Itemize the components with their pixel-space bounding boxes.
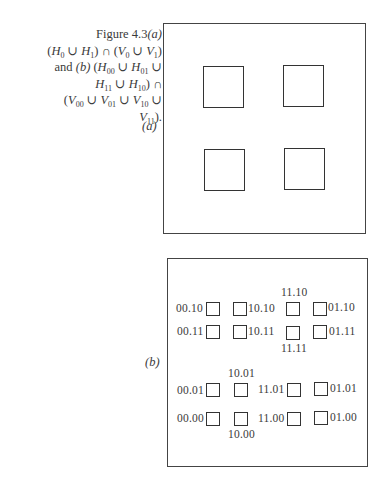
label-00-11: 00.11 [177, 325, 203, 337]
caption-line-3: and (b) (H00 ∪ H01 ∪ [0, 59, 162, 76]
label-10-00: 10.00 [228, 428, 255, 440]
panel-b-square [234, 383, 248, 397]
label-01-11: 01.11 [329, 325, 355, 337]
panel-b-frame [167, 258, 368, 467]
panel-b-square [206, 383, 220, 397]
label-00-00: 00.00 [177, 412, 204, 424]
label-11-10: 11.10 [281, 286, 307, 298]
label-01-00: 01.00 [330, 411, 357, 423]
panel-b-square [233, 325, 247, 339]
panel-b-square [234, 412, 248, 426]
panel-b-square [286, 302, 300, 316]
figure-caption: Figure 4.3(a) (H0 ∪ H1) ∩ (V0 ∪ V1) and … [0, 26, 162, 125]
label-00-10: 00.10 [176, 302, 203, 314]
panel-b-square [206, 325, 220, 339]
panel-a-frame [163, 23, 366, 234]
caption-line-2: (H0 ∪ H1) ∩ (V0 ∪ V1) [0, 43, 162, 60]
caption-line-6: V11). [0, 109, 162, 126]
panel-b-square [206, 412, 220, 426]
label-10-11: 10.11 [248, 325, 274, 337]
label-01-01: 01.01 [330, 382, 357, 394]
label-01-10: 01.10 [328, 301, 355, 313]
panel-a-square-bottom-left [204, 149, 245, 191]
panel-a-square-top-left [203, 66, 244, 108]
panel-b-square [313, 325, 327, 339]
panel-b-square [314, 411, 328, 425]
panel-a-square-bottom-right [284, 148, 325, 190]
caption-line-5: (V00 ∪ V01 ∪ V10 ∪ [0, 92, 162, 109]
panel-b-square [313, 302, 327, 316]
panel-a-label: (a) [142, 119, 157, 134]
label-11-01: 11.01 [258, 383, 284, 395]
panel-b-square [233, 302, 247, 316]
panel-b-square [314, 382, 328, 396]
panel-b-square [287, 412, 301, 426]
label-11-11: 11.11 [281, 342, 307, 354]
label-00-01: 00.01 [177, 384, 204, 396]
caption-line-1: Figure 4.3(a) [0, 26, 162, 43]
panel-a-square-top-right [283, 65, 324, 107]
label-10-01: 10.01 [228, 367, 255, 379]
panel-b-square [287, 383, 301, 397]
caption-line-4: H11 ∪ H10) ∩ [0, 76, 162, 93]
panel-b-square [206, 302, 220, 316]
panel-b-square [286, 326, 300, 340]
label-10-10: 10.10 [248, 302, 275, 314]
panel-b-label: (b) [145, 355, 160, 370]
label-11-00: 11.00 [258, 412, 284, 424]
